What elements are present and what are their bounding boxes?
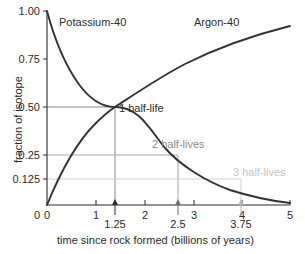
x-subtick-label-125: 1.25 — [95, 219, 135, 230]
annotation-three-half-lives: 3 half-lives — [233, 167, 286, 178]
y-tick-label-050: 0.50 — [0, 102, 40, 113]
curve-argon-40 — [47, 26, 290, 205]
x-subtick-arrows — [112, 199, 244, 215]
x-subtick-label-375: 3.75 — [221, 219, 261, 230]
x-subtick-label-250: 2.5 — [161, 219, 195, 230]
y-tick-label-0: 0 — [0, 210, 40, 221]
x-axis-ticks — [96, 200, 290, 205]
x-tick-label-0: 0 — [37, 210, 57, 221]
series-label-potassium-40: Potassium-40 — [59, 17, 126, 28]
guide-lines-one-half-life — [47, 107, 115, 205]
x-tick-label-2: 2 — [135, 210, 155, 221]
y-tick-label-075: 0.75 — [0, 54, 40, 65]
y-tick-label-0125: 0.125 — [0, 174, 40, 185]
annotation-one-half-life: 1 half-life — [119, 103, 164, 114]
y-axis-ticks — [43, 11, 47, 179]
series-label-argon-40: Argon-40 — [194, 17, 239, 28]
subtick-arrow-125 — [112, 199, 118, 215]
subtick-arrow-250 — [175, 199, 181, 215]
annotation-two-half-lives: 2 half-lives — [152, 139, 205, 150]
half-life-decay-chart: fraction of isotope 1.00 0.75 0.50 0.25 … — [0, 0, 305, 254]
x-tick-label-5: 5 — [280, 210, 300, 221]
y-tick-label-025: 0.25 — [0, 150, 40, 161]
x-axis-title: time since rock formed (billions of year… — [57, 235, 254, 246]
y-tick-label-100: 1.00 — [0, 6, 40, 17]
